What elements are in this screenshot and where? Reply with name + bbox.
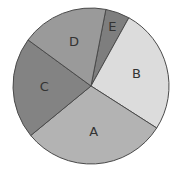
pie-slices xyxy=(13,8,169,164)
pie-chart: EBACD xyxy=(0,0,174,175)
slice-label-c: C xyxy=(40,79,49,94)
slice-label-b: B xyxy=(132,66,141,81)
slice-label-d: D xyxy=(69,34,79,49)
slice-label-a: A xyxy=(89,124,98,139)
slice-label-e: E xyxy=(108,19,116,34)
